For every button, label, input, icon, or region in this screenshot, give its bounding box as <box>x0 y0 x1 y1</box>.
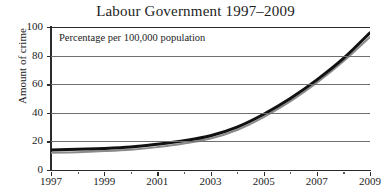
y-tick-label: 100 <box>3 20 43 32</box>
y-tick-label: 0 <box>3 163 43 175</box>
gridline <box>51 27 370 28</box>
y-tick-mark <box>47 141 51 142</box>
x-tick-mark-minor <box>184 172 185 175</box>
x-tick-label: 2001 <box>134 175 180 187</box>
gridline <box>51 56 370 57</box>
plot-area: Percentage per 100,000 population <box>51 27 370 170</box>
chart-title: Labour Government 1997–2009 <box>0 3 391 20</box>
series-line-upper-black-curve <box>51 33 370 150</box>
series-layer <box>51 27 370 170</box>
x-tick-mark-minor <box>290 172 291 175</box>
x-tick-mark-minor <box>78 172 79 175</box>
x-tick-label: 2003 <box>188 175 234 187</box>
gridline <box>51 141 370 142</box>
x-tick-mark-minor <box>237 172 238 175</box>
x-tick-label: 1997 <box>28 175 74 187</box>
y-tick-mark <box>47 84 51 85</box>
gridline <box>51 113 370 114</box>
chart-figure: Labour Government 1997–2009 Amount of cr… <box>0 0 391 192</box>
y-tick-mark <box>47 27 51 28</box>
y-tick-label: 60 <box>3 77 43 89</box>
x-tick-mark-minor <box>131 172 132 175</box>
x-tick-label: 1999 <box>81 175 127 187</box>
y-tick-label: 20 <box>3 134 43 146</box>
x-tick-mark-minor <box>343 172 344 175</box>
gridline <box>51 84 370 85</box>
x-tick-label: 2005 <box>241 175 287 187</box>
y-tick-label: 80 <box>3 49 43 61</box>
x-tick-label: 2009 <box>347 175 391 187</box>
y-tick-label: 40 <box>3 106 43 118</box>
x-tick-label: 2007 <box>294 175 340 187</box>
y-tick-mark <box>47 56 51 57</box>
y-tick-mark <box>47 113 51 114</box>
